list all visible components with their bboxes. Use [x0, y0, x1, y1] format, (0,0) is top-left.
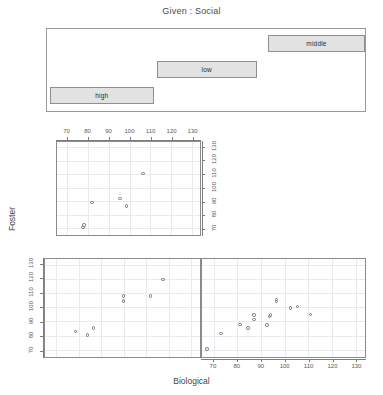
axis-tick-label: 130 — [28, 254, 34, 272]
axis-tick — [202, 188, 205, 189]
data-point — [125, 204, 129, 208]
gridline-horizontal — [202, 265, 365, 266]
axis-tick — [193, 137, 194, 140]
data-point — [92, 326, 96, 330]
axis-tick — [109, 137, 110, 140]
gridline-horizontal — [45, 321, 200, 322]
data-point — [246, 326, 250, 330]
axis-tick — [309, 359, 310, 362]
axis-tick-label: 100 — [276, 363, 294, 369]
gridline-horizontal — [57, 228, 200, 229]
gridline-horizontal — [57, 201, 200, 202]
axis-tick-label: 80 — [228, 363, 246, 369]
data-point — [265, 323, 269, 327]
y-axis-label: Foster — [7, 189, 17, 249]
given-bar-label: high — [95, 92, 108, 99]
gridline-horizontal — [57, 161, 200, 162]
axis-line — [201, 359, 366, 360]
axis-tick — [285, 359, 286, 362]
gridline-horizontal — [202, 350, 365, 351]
page-title: Given : Social — [0, 6, 383, 16]
data-point — [309, 313, 313, 317]
gridline-horizontal — [45, 307, 200, 308]
axis-tick-label: 130 — [184, 128, 202, 134]
axis-tick-label: 120 — [163, 128, 181, 134]
axis-tick-label: 130 — [211, 137, 217, 155]
axis-line — [56, 140, 201, 141]
data-point — [122, 299, 126, 303]
given-bar-low[interactable]: low — [157, 61, 257, 78]
data-point — [74, 330, 78, 334]
axis-tick — [40, 351, 43, 352]
x-axis-label: Biological — [0, 376, 383, 386]
axis-tick-label: 90 — [100, 128, 118, 134]
data-point — [81, 226, 85, 230]
gridline-horizontal — [57, 147, 200, 148]
axis-tick — [202, 229, 205, 230]
gridline-horizontal — [45, 336, 200, 337]
axis-tick — [202, 174, 205, 175]
data-point — [269, 313, 273, 317]
given-bar-middle[interactable]: middle — [268, 35, 365, 52]
panel-bottom-right[interactable] — [201, 258, 366, 358]
axis-tick — [40, 278, 43, 279]
data-point — [161, 278, 165, 282]
axis-tick — [202, 202, 205, 203]
axis-tick-label: 120 — [324, 363, 342, 369]
data-point — [289, 306, 293, 310]
data-point — [118, 197, 122, 201]
given-bar-high[interactable]: high — [50, 87, 153, 104]
data-point — [122, 294, 126, 298]
gridline-horizontal — [57, 188, 200, 189]
axis-tick — [40, 293, 43, 294]
data-point — [238, 323, 242, 327]
given-bar-label: low — [202, 66, 212, 73]
data-point — [90, 201, 94, 205]
axis-tick — [333, 359, 334, 362]
axis-tick-label: 110 — [142, 128, 160, 134]
axis-tick — [202, 147, 205, 148]
axis-tick — [67, 137, 68, 140]
data-point — [219, 332, 223, 336]
gridline-horizontal — [202, 307, 365, 308]
axis-line — [43, 258, 44, 358]
axis-tick-label: 130 — [347, 363, 365, 369]
gridline-horizontal — [57, 174, 200, 175]
gridline-horizontal — [45, 350, 200, 351]
axis-tick — [151, 137, 152, 140]
axis-tick — [130, 137, 131, 140]
gridline-horizontal — [202, 279, 365, 280]
data-point — [252, 313, 256, 317]
given-bar-label: middle — [306, 40, 326, 47]
gridline-horizontal — [202, 336, 365, 337]
axis-tick — [40, 322, 43, 323]
data-point — [149, 294, 153, 298]
axis-tick — [88, 137, 89, 140]
given-panel: middlelowhigh — [46, 28, 366, 112]
data-point — [252, 318, 256, 322]
coplot-figure: Given : Social middlelowhigh 70809010011… — [0, 0, 383, 395]
axis-tick — [40, 307, 43, 308]
axis-tick-label: 90 — [252, 363, 270, 369]
gridline-horizontal — [45, 279, 200, 280]
axis-tick — [202, 215, 205, 216]
gridline-horizontal — [45, 265, 200, 266]
axis-tick-label: 100 — [121, 128, 139, 134]
axis-tick — [172, 137, 173, 140]
panel-top-left[interactable] — [56, 141, 201, 236]
axis-tick — [237, 359, 238, 362]
axis-tick-label: 110 — [300, 363, 318, 369]
panel-bottom-left[interactable] — [44, 258, 201, 358]
axis-tick — [356, 359, 357, 362]
axis-tick — [40, 264, 43, 265]
axis-tick — [261, 359, 262, 362]
axis-tick-label: 70 — [58, 128, 76, 134]
data-point — [205, 347, 209, 351]
axis-tick — [213, 359, 214, 362]
gridline-horizontal — [57, 215, 200, 216]
axis-tick — [40, 336, 43, 337]
gridline-horizontal — [202, 321, 365, 322]
axis-tick-label: 80 — [79, 128, 97, 134]
axis-tick-label: 70 — [204, 363, 222, 369]
axis-tick — [202, 160, 205, 161]
